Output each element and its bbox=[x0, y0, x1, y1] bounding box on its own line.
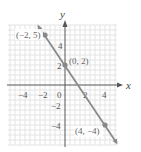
point-label: (−2, 5) bbox=[16, 30, 41, 40]
y-tick-label: −4 bbox=[51, 121, 61, 131]
x-tick-label: 4 bbox=[102, 90, 107, 100]
y-tick-label: −2 bbox=[51, 101, 61, 111]
x-axis-arrow-icon bbox=[117, 83, 123, 88]
x-tick-label: −2 bbox=[38, 90, 48, 100]
x-tick-label: −4 bbox=[18, 90, 28, 100]
y-axis-label: y bbox=[59, 8, 65, 20]
y-tick-label: 4 bbox=[58, 41, 63, 51]
y-tick-label: 2 bbox=[57, 61, 62, 71]
point-label: (4, −4) bbox=[75, 126, 100, 136]
point-neg2-5 bbox=[42, 32, 47, 37]
point-0-2 bbox=[62, 62, 67, 67]
x-axis-label: x bbox=[125, 79, 131, 91]
coordinate-plane: x y −4 −2 0 2 4 4 2 −2 −4 (−2, 5) (0, 2)… bbox=[0, 0, 141, 152]
point-label: (0, 2) bbox=[69, 56, 89, 66]
point-4-neg4 bbox=[102, 122, 107, 127]
y-axis-arrow-icon bbox=[63, 20, 68, 27]
x-tick-label: 0 bbox=[57, 90, 62, 100]
